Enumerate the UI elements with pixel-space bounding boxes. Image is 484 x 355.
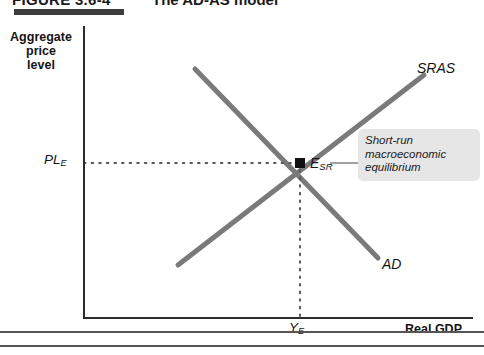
callout-line-1: Short-run xyxy=(365,134,474,148)
figure-ad-as-model: FIGURE 3.6-4 The AD-AS model Aggregate p… xyxy=(0,0,484,355)
y-axis-title-line-3: level xyxy=(27,58,55,72)
x-axis-line xyxy=(83,317,473,319)
y-tick-subscript: E xyxy=(61,158,67,168)
y-axis-title: Aggregate price level xyxy=(4,30,78,72)
equilibrium-label-subscript: SR xyxy=(319,161,332,172)
page-rule-lower xyxy=(0,345,484,347)
equilibrium-label-base: E xyxy=(310,155,319,171)
ad-curve-label: AD xyxy=(382,256,401,272)
y-axis-title-line-1: Aggregate xyxy=(10,30,72,44)
y-axis-tick-price-level: PLE xyxy=(44,152,67,168)
x-axis-title: Real GDP xyxy=(405,322,462,336)
equilibrium-point-label: ESR xyxy=(310,155,333,172)
sras-curve-label: SRAS xyxy=(417,60,455,76)
callout-line-3: equilibrium xyxy=(365,161,474,175)
equilibrium-point-marker xyxy=(295,158,305,168)
y-axis-line xyxy=(83,26,85,318)
equilibrium-callout: Short-run macroeconomic equilibrium xyxy=(358,129,480,181)
page-rule-upper xyxy=(0,331,484,333)
x-axis-tick-output: YE xyxy=(289,320,304,336)
y-tick-base: PL xyxy=(44,152,61,167)
y-axis-title-line-2: price xyxy=(26,44,56,58)
callout-line-2: macroeconomic xyxy=(365,148,474,162)
